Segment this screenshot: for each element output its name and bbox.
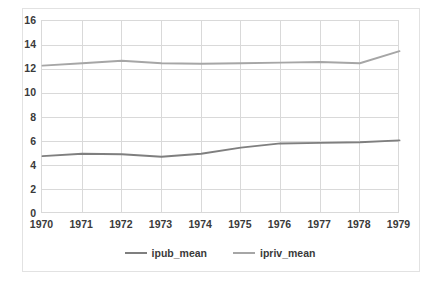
- legend-line-swatch-icon: [125, 252, 147, 255]
- x-axis-tick-label: 1979: [387, 218, 410, 230]
- series-line-ipriv_mean: [43, 51, 400, 65]
- plot-area: [41, 20, 399, 213]
- y-axis-tick-label: 8: [2, 111, 36, 122]
- x-axis-tick-label: 1972: [109, 218, 132, 230]
- x-axis-tick-label: 1973: [149, 218, 172, 230]
- y-axis-tick-label: 0: [2, 208, 36, 219]
- x-axis: 1970197119721973197419751976197719781979: [41, 218, 399, 234]
- legend-entry-ipub_mean[interactable]: ipub_mean: [125, 248, 207, 259]
- y-axis-tick-label: 16: [2, 15, 36, 26]
- y-axis-tick-label: 10: [2, 87, 36, 98]
- y-axis-tick-label: 6: [2, 135, 36, 146]
- y-axis: 1614121086420: [0, 20, 36, 213]
- series-line-ipub_mean: [43, 140, 400, 156]
- x-axis-tick-label: 1978: [347, 218, 370, 230]
- legend-entry-ipriv_mean[interactable]: ipriv_mean: [233, 248, 315, 259]
- legend-label: ipub_mean: [152, 248, 207, 259]
- x-axis-tick-label: 1975: [228, 218, 251, 230]
- x-axis-tick-label: 1976: [268, 218, 291, 230]
- y-axis-tick-label: 12: [2, 63, 36, 74]
- y-axis-tick-label: 2: [2, 184, 36, 195]
- legend-label: ipriv_mean: [260, 248, 315, 259]
- y-axis-tick-label: 14: [2, 39, 36, 50]
- x-axis-tick-label: 1974: [188, 218, 211, 230]
- x-axis-tick-label: 1970: [30, 218, 53, 230]
- x-axis-tick-label: 1977: [307, 218, 330, 230]
- line-chart: 1614121086420 19701971197219731974197519…: [0, 0, 438, 285]
- x-axis-tick-label: 1971: [69, 218, 92, 230]
- legend-line-swatch-icon: [233, 252, 255, 255]
- y-axis-tick-label: 4: [2, 160, 36, 171]
- series-layer: [42, 21, 400, 214]
- chart-legend: ipub_meanipriv_mean: [41, 244, 399, 262]
